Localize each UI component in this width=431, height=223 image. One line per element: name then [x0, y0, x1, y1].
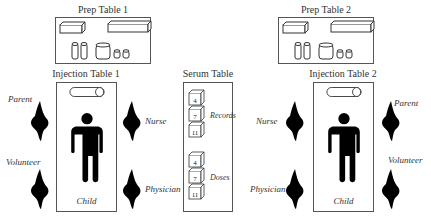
- nurse-person-icon: [122, 99, 142, 143]
- physician-person-icon: [285, 167, 305, 211]
- injection-table-1: Child: [56, 82, 117, 212]
- pillow-icon: [326, 86, 362, 98]
- parent-person-icon: [30, 99, 50, 143]
- nurse-person-icon: [285, 99, 305, 143]
- prep-table-1-title: Prep Table 1: [55, 4, 151, 15]
- records-label: Records: [210, 111, 236, 120]
- serum-table-title: Serum Table: [175, 68, 241, 79]
- prep-table-1: [55, 17, 151, 64]
- prep-supplies-icon: [279, 18, 375, 65]
- prep-table-2-title: Prep Table 2: [278, 4, 374, 15]
- child-label: Child: [57, 196, 116, 206]
- doses-box-7: 7: [189, 175, 201, 183]
- nurse-label: Nurse: [256, 116, 278, 126]
- physician-label: Physician: [145, 184, 181, 194]
- doses-label: Doses: [210, 173, 230, 182]
- parent-label: Parent: [394, 98, 418, 108]
- child-icon: [70, 113, 104, 183]
- volunteer-person-icon: [381, 167, 401, 211]
- nurse-label: Nurse: [145, 116, 167, 126]
- records-box-4: 4: [189, 97, 201, 105]
- volunteer-person-icon: [30, 167, 50, 211]
- physician-person-icon: [122, 167, 142, 211]
- injection-table-2-title: Injection Table 2: [297, 68, 389, 79]
- child-icon: [327, 113, 361, 183]
- volunteer-label: Volunteer: [388, 155, 423, 165]
- records-box-11: 11: [189, 129, 201, 137]
- injection-table-2: Child: [313, 82, 374, 212]
- physician-label: Physician: [250, 184, 286, 194]
- pillow-icon: [69, 86, 105, 98]
- records-box-7: 7: [189, 113, 201, 121]
- prep-supplies-icon: [56, 18, 152, 65]
- child-label: Child: [314, 196, 373, 206]
- prep-table-2: [278, 17, 374, 64]
- volunteer-label: Volunteer: [6, 157, 41, 167]
- serum-table: 4 7 11 4 7 11 Records Doses: [183, 82, 233, 212]
- injection-table-1-title: Injection Table 1: [40, 68, 132, 79]
- doses-box-4: 4: [189, 159, 201, 167]
- parent-label: Parent: [8, 94, 32, 104]
- doses-box-11: 11: [189, 191, 201, 199]
